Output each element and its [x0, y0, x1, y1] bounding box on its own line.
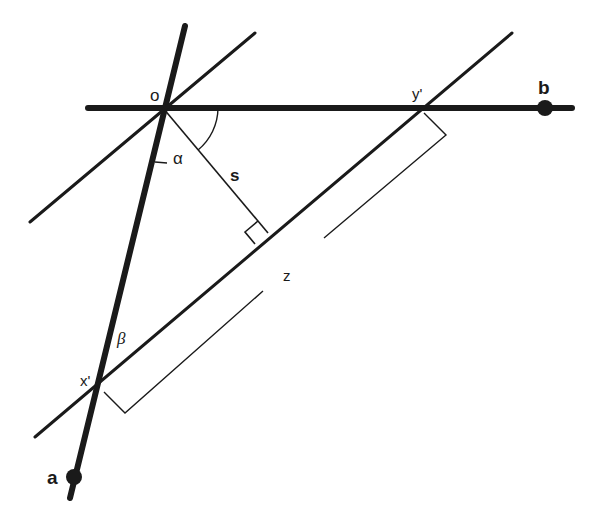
geometry-diagram: o b a y' x' s z α β — [0, 0, 597, 524]
point-a-dot — [66, 469, 82, 485]
point-b-dot — [537, 100, 553, 116]
label-y-prime: y' — [412, 85, 423, 102]
line-oa — [70, 26, 185, 498]
perpendicular-s — [163, 108, 268, 233]
label-s: s — [230, 166, 239, 185]
label-beta: β — [116, 329, 126, 348]
alpha-tick — [155, 162, 167, 163]
label-a: a — [47, 467, 58, 488]
line-xy — [35, 33, 512, 437]
label-z: z — [283, 267, 291, 284]
label-o: o — [150, 86, 159, 105]
right-angle-marker — [245, 221, 258, 244]
label-b: b — [538, 77, 550, 98]
angle-arc-o — [198, 108, 218, 150]
label-alpha: α — [173, 149, 183, 168]
label-x-prime: x' — [80, 372, 91, 389]
